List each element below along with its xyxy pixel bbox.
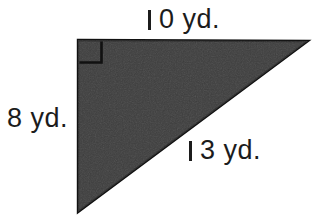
- label-left-side-text: 8 yd.: [7, 103, 68, 133]
- label-hypotenuse-side: 3 yd.: [189, 137, 261, 164]
- geometry-figure: 0 yd. 8 yd. 3 yd.: [0, 0, 316, 223]
- label-left-side: 8 yd.: [7, 105, 68, 132]
- label-top-side: 0 yd.: [148, 6, 220, 33]
- digit-one-glyph: [148, 10, 151, 30]
- label-top-side-text: 0 yd.: [159, 4, 220, 34]
- label-hypotenuse-side-text: 3 yd.: [200, 135, 261, 165]
- digit-one-glyph: [189, 141, 192, 161]
